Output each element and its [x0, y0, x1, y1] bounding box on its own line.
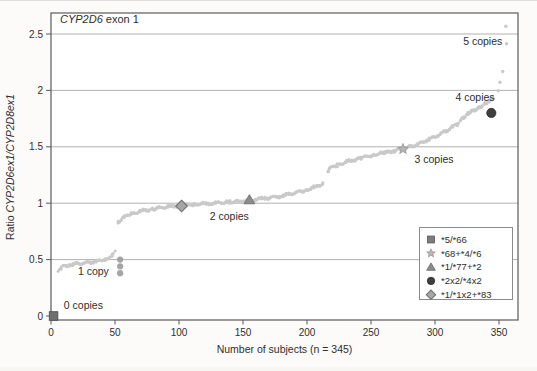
legend: *5/*66*68+*4/*6*1/*77+*2*2x2/*4x2*1/*1x2… [420, 228, 513, 301]
legend-label: *1/*77+*2 [441, 261, 481, 272]
annotation-5-copies: 5 copies [463, 35, 502, 47]
x-tick-label: 350 [491, 327, 508, 338]
data-point [498, 80, 501, 83]
y-tick-label: 1.5 [29, 141, 43, 152]
outlier-cluster-point [117, 257, 123, 263]
outlier-cluster-point [117, 270, 123, 276]
chart-title: CYP2D6 exon 1 [60, 13, 139, 25]
data-point [321, 181, 324, 184]
y-tick-label: 2 [37, 85, 43, 96]
x-axis-label: Number of subjects (n = 345) [217, 343, 353, 355]
legend-marker-circle [427, 277, 434, 284]
data-point [457, 122, 460, 125]
legend-label: *68+*4/*6 [441, 248, 481, 259]
x-tick-label: 150 [235, 327, 252, 338]
y-tick-label: 2.5 [29, 29, 43, 40]
annotation-3-copies: 3 copies [415, 153, 454, 165]
data-point [504, 25, 507, 28]
outlier-cluster-point [117, 263, 123, 269]
legend-label: *1/*1x2+*83 [441, 289, 491, 300]
y-tick-label: 1 [37, 198, 43, 209]
annotation-1-copy: 1 copy [78, 265, 110, 277]
annotation-2-copies: 2 copies [210, 210, 249, 222]
data-point [497, 89, 500, 92]
annotation-0-copies: 0 copies [64, 299, 103, 311]
data-point [501, 70, 504, 73]
annotation-4-copies: 4 copies [455, 91, 494, 103]
y-tick-label: 0.5 [29, 254, 43, 265]
figure-cyp2d6-exon1-copy-number-plot: 05010015020025030035000.511.522.50 copie… [0, 0, 537, 367]
x-tick-label: 100 [171, 327, 188, 338]
legend-label: *5/*66 [441, 234, 467, 245]
data-point [111, 252, 114, 255]
x-tick-label: 0 [48, 327, 54, 338]
y-axis-label: Ratio CYP2D6ex1/CYP2D8ex1 [4, 94, 16, 240]
data-point [505, 42, 508, 45]
marker-square-0-copies [49, 312, 58, 321]
x-tick-label: 250 [363, 327, 380, 338]
y-tick-label: 0 [37, 311, 43, 322]
legend-marker-square [428, 236, 435, 243]
data-point [113, 249, 116, 252]
legend-label: *2x2/*4x2 [441, 275, 482, 286]
marker-circle-4-copies [487, 108, 496, 117]
x-tick-label: 300 [427, 327, 444, 338]
chart: 05010015020025030035000.511.522.50 copie… [0, 1, 537, 367]
x-tick-label: 50 [109, 327, 121, 338]
x-tick-label: 200 [299, 327, 316, 338]
